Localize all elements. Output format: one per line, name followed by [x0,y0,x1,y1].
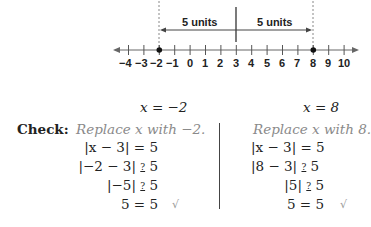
tick-label: 6 [279,57,285,69]
left-line-3: |−5| ? 5 [107,177,158,193]
left-line-1: |x − 3| = 5 [84,139,158,155]
right-line-4: 5 = 5 [287,196,324,212]
tick-label: 8 [310,57,316,69]
check-mark-icon: √ [172,198,179,211]
left-replace-instruction: Replace x with −2. [76,121,205,137]
right-replace-instruction: Replace x with 8. [253,121,371,137]
right-line-3: |5| ? 5 [284,177,324,193]
tick-label: 4 [248,57,254,69]
tick-label: 3 [233,57,239,69]
right-line-2: |8 − 3| ? 5 [251,158,319,174]
left-line-2: |−2 − 3| ? 5 [79,158,159,174]
number-line-figure [0,0,362,80]
tick-label: 5 [264,57,270,69]
column-divider [219,123,220,209]
left-span-label: 5 units [182,16,217,28]
left-line-4: 5 = 5 [121,196,158,212]
check-mark-icon: √ [340,198,347,211]
tick-label: −1 [166,57,179,69]
right-solution-header: x = 8 [303,99,339,115]
right-line-1: |x − 3| = 5 [251,139,325,155]
tick-label: 1 [202,57,208,69]
left-solution-header: x = −2 [140,99,187,115]
tick-label: 7 [294,57,300,69]
tick-label: −2 [150,57,163,69]
tick-label: 10 [338,57,350,69]
right-span-label: 5 units [257,16,292,28]
tick-label: −3 [135,57,148,69]
tick-label: 9 [325,57,331,69]
tick-label: 0 [187,57,193,69]
tick-label: −4 [119,57,132,69]
tick-label: 2 [217,57,223,69]
check-label: Check: [17,121,69,137]
